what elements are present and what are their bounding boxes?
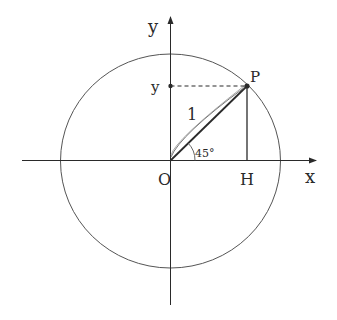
angle-label: 45° [195, 147, 215, 160]
foot-h-label: H [240, 170, 254, 189]
y-axis-label: y [147, 16, 159, 37]
point-y [168, 84, 172, 88]
origin-label: O [158, 170, 171, 189]
unit-circle-diagram: y x y P O H 1 45° [0, 0, 337, 320]
x-axis-label: x [305, 166, 315, 187]
y-projection-label: y [150, 78, 160, 96]
angle-arc [188, 143, 195, 161]
point-p-label: P [250, 68, 260, 86]
point-p [244, 83, 249, 88]
radius-label: 1 [187, 105, 197, 124]
